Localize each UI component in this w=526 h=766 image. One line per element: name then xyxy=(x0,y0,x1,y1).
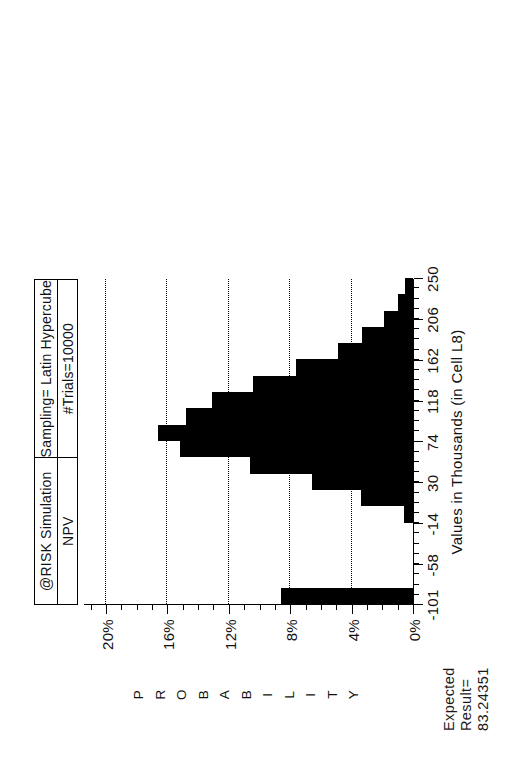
y-axis-tick xyxy=(137,605,138,610)
histogram-bar xyxy=(281,588,413,604)
histogram-bar xyxy=(362,327,413,343)
x-axis-tick-major xyxy=(414,360,423,361)
x-axis-tick xyxy=(414,410,419,411)
x-axis-tick-major xyxy=(414,482,423,483)
y-axis-ticks xyxy=(84,605,414,615)
simulation-title-box: @RISK Simulation NPV Sampling= Latin Hyp… xyxy=(34,279,78,605)
trials-count-label: #Trials=10000 xyxy=(58,280,77,457)
histogram-bar xyxy=(186,408,413,424)
expected-result-caption: Expected Result= 83.24351 xyxy=(441,667,492,731)
rotated-chart-page: Expected Result= 83.24351 @RISK Simulati… xyxy=(28,33,498,733)
histogram-bars xyxy=(84,279,413,604)
x-axis-tick-major xyxy=(414,441,423,442)
x-axis-labels: -101-58-143074118162206250 xyxy=(424,151,446,733)
x-axis-tick xyxy=(414,532,419,533)
x-axis-tick xyxy=(414,349,419,350)
x-axis-tick xyxy=(414,298,419,299)
output-name-label: NPV xyxy=(58,458,77,604)
y-axis-tick-label: 16% xyxy=(160,619,177,650)
x-axis-tick-major xyxy=(414,278,423,279)
x-axis-tick-label: -14 xyxy=(424,513,441,536)
x-axis-tick-label: 206 xyxy=(424,307,441,333)
y-axis-tick-major xyxy=(106,605,107,614)
x-axis-tick xyxy=(414,543,419,544)
x-axis-tick-major xyxy=(414,523,423,524)
x-axis-tick-major xyxy=(414,401,423,402)
histogram-plot-area xyxy=(84,279,414,605)
histogram-bar xyxy=(180,441,413,457)
x-axis-tick xyxy=(414,379,419,380)
x-axis-tick xyxy=(414,420,419,421)
x-axis-tick xyxy=(414,287,419,288)
histogram-bar xyxy=(361,490,413,506)
y-axis-tick xyxy=(398,605,399,610)
x-axis-tick xyxy=(414,389,419,390)
y-axis-tick xyxy=(198,605,199,610)
y-axis-tick-label: 0% xyxy=(406,619,423,641)
x-axis-tick xyxy=(414,573,419,574)
x-axis-tick-label: 162 xyxy=(424,348,441,374)
y-axis-tick xyxy=(382,605,383,610)
x-axis-tick xyxy=(414,430,419,431)
histogram-bar xyxy=(253,376,413,392)
risk-simulation-label: @RISK Simulation xyxy=(35,458,58,604)
x-axis-tick-label: 118 xyxy=(424,389,441,414)
x-axis-tick-major xyxy=(414,564,423,565)
y-axis-tick-label: 4% xyxy=(344,619,361,641)
y-axis-tick-major xyxy=(290,605,291,614)
x-axis-tick xyxy=(414,512,419,513)
x-axis-tick-label: 250 xyxy=(424,266,441,292)
histogram-bar xyxy=(384,311,413,327)
x-axis-tick-major xyxy=(414,604,423,605)
histogram-bar xyxy=(398,294,413,310)
x-axis-tick xyxy=(414,502,419,503)
y-axis-tick-major xyxy=(229,605,230,614)
y-axis-tick xyxy=(183,605,184,610)
x-axis-tick xyxy=(414,553,419,554)
x-axis-tick xyxy=(414,338,419,339)
y-axis-labels: 0%4%8%12%16%20% xyxy=(84,619,414,677)
x-axis-tick xyxy=(414,328,419,329)
x-axis-tick xyxy=(414,308,419,309)
y-axis-tick-label: 8% xyxy=(283,619,300,641)
x-axis-tick-label: -101 xyxy=(424,589,441,620)
title-cell-right: Sampling= Latin Hypercube #Trials=10000 xyxy=(35,280,77,458)
x-axis-tick xyxy=(414,461,419,462)
y-axis-tick xyxy=(260,605,261,610)
x-axis-tick xyxy=(414,594,419,595)
y-axis-tick-major xyxy=(413,605,414,614)
x-axis-tick-label: 30 xyxy=(424,475,441,492)
histogram-bar xyxy=(404,506,413,522)
y-axis-tick xyxy=(367,605,368,610)
y-axis-tick-major xyxy=(352,605,353,614)
x-axis-tick xyxy=(414,471,419,472)
histogram-bar xyxy=(158,425,413,441)
y-axis-tick-label: 12% xyxy=(221,619,238,650)
y-axis-tick xyxy=(321,605,322,610)
histogram-bar xyxy=(312,474,413,490)
y-axis-tick-major xyxy=(167,605,168,614)
y-axis-tick xyxy=(213,605,214,610)
y-axis-tick xyxy=(244,605,245,610)
x-axis-tick-label: -58 xyxy=(424,554,441,577)
x-axis-tick xyxy=(414,369,419,370)
y-axis-tick xyxy=(275,605,276,610)
histogram-bar xyxy=(405,278,413,294)
y-axis-title: PROBABILITY xyxy=(84,685,414,705)
x-axis-ticks xyxy=(414,279,424,605)
histogram-bar xyxy=(212,392,413,408)
x-axis-tick-label: 74 xyxy=(424,434,441,451)
y-axis-tick xyxy=(306,605,307,610)
x-axis-tick-major xyxy=(414,319,423,320)
x-axis-title: Values in Thousands (in Cell L8) xyxy=(448,279,465,605)
y-axis-tick xyxy=(336,605,337,610)
y-axis-tick xyxy=(121,605,122,610)
histogram-bar xyxy=(296,359,413,375)
x-axis-tick xyxy=(414,451,419,452)
x-axis-tick xyxy=(414,492,419,493)
sampling-method-label: Sampling= Latin Hypercube xyxy=(35,280,58,457)
y-axis-title-text: PROBABILITY xyxy=(131,688,368,702)
y-axis-tick xyxy=(152,605,153,610)
x-axis-tick xyxy=(414,584,419,585)
title-cell-left: @RISK Simulation NPV xyxy=(35,458,77,604)
